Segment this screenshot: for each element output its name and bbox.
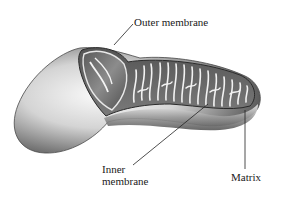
inner-membrane-label-line2: membrane (102, 175, 148, 187)
inner-membrane-label-line1: Inner (102, 163, 148, 175)
matrix-label: Matrix (231, 171, 261, 183)
inner-membrane-label: Inner membrane (102, 163, 148, 187)
outer-membrane-label: Outer membrane (134, 16, 208, 28)
mitochondrion-diagram: Outer membrane Inner membrane Matrix (0, 0, 284, 203)
outer-membrane-leader (114, 24, 133, 45)
